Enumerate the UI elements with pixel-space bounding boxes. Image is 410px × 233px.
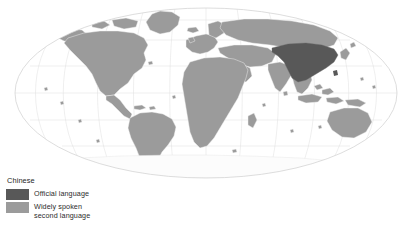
legend-item-second-language: Widely spoken second language: [6, 202, 110, 221]
world-language-map-figure: Chinese Official language Widely spoken …: [0, 0, 410, 233]
legend-swatch-second-language: [6, 202, 29, 213]
legend-title: Chinese: [7, 176, 110, 185]
map-legend: Chinese Official language Widely spoken …: [6, 176, 110, 223]
legend-item-official: Official language: [6, 189, 110, 200]
legend-label-official: Official language: [34, 189, 89, 199]
legend-swatch-official: [6, 189, 29, 200]
legend-label-second-language: Widely spoken second language: [34, 202, 90, 221]
